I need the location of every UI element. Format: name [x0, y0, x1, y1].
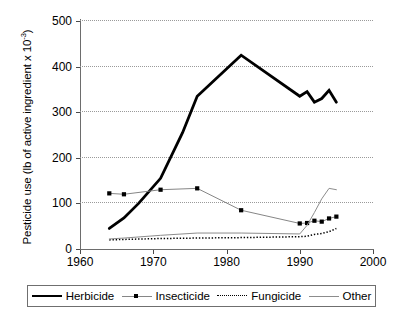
y-tick-label: 400 [38, 61, 72, 73]
x-tick-mark [373, 250, 374, 254]
other-line-icon [309, 291, 339, 301]
series-line-fungicide [109, 228, 336, 239]
data-point-marker-insecticide [107, 191, 111, 195]
legend-label-other: Other [342, 290, 372, 302]
chart-legend: Herbicide Insecticide Fungicide Other [27, 285, 376, 307]
x-tick-label: 1990 [277, 256, 323, 268]
x-tick-label: 1960 [57, 256, 103, 268]
y-tick-label: 100 [38, 197, 72, 209]
y-tick-label: 300 [38, 106, 72, 118]
x-tick-label: 1980 [204, 256, 250, 268]
data-point-marker-insecticide [122, 192, 126, 196]
y-tick-label: 0 [38, 243, 72, 255]
y-axis-title-main: Pesticide use (lb of active ingredient x… [21, 40, 33, 245]
fungicide-line-icon [217, 291, 247, 301]
y-tick-label: 200 [38, 152, 72, 164]
gridline [80, 111, 373, 113]
legend-item-herbicide[interactable]: Herbicide [32, 290, 115, 302]
legend-label-insecticide: Insecticide [155, 290, 210, 302]
legend-item-fungicide[interactable]: Fungicide [217, 290, 301, 302]
data-point-marker-insecticide [298, 221, 302, 225]
data-point-marker-insecticide [239, 208, 243, 212]
pesticide-use-chart: Pesticide use (lb of active ingredient x… [0, 0, 405, 322]
x-tick-label: 1970 [130, 256, 176, 268]
y-tick-mark [76, 112, 80, 113]
gridline [80, 66, 373, 68]
series-line-other [109, 188, 336, 239]
x-tick-mark [153, 250, 154, 254]
y-axis-title-exponent: -3 [19, 33, 28, 39]
x-tick-mark [300, 250, 301, 254]
y-tick-mark [76, 21, 80, 22]
x-tick-mark [80, 250, 81, 254]
legend-item-other[interactable]: Other [309, 290, 372, 302]
legend-label-herbicide: Herbicide [65, 290, 115, 302]
series-line-insecticide [109, 188, 336, 223]
data-point-marker-insecticide [320, 220, 324, 224]
y-tick-label: 500 [38, 15, 72, 27]
legend-item-insecticide[interactable]: Insecticide [122, 290, 210, 302]
data-point-marker-insecticide [312, 219, 316, 223]
data-point-marker-insecticide [334, 215, 338, 219]
gridline [80, 157, 373, 159]
x-tick-mark [227, 250, 228, 254]
y-axis-line [80, 19, 81, 251]
y-tick-mark [76, 67, 80, 68]
herbicide-line-icon [32, 291, 62, 301]
y-axis-title-close: ) [21, 30, 33, 34]
data-point-marker-insecticide [195, 186, 199, 190]
y-tick-mark [76, 203, 80, 204]
y-tick-mark [76, 158, 80, 159]
gridline [80, 20, 373, 22]
data-point-marker-insecticide [305, 221, 309, 225]
legend-label-fungicide: Fungicide [250, 290, 301, 302]
x-tick-label: 2000 [350, 256, 396, 268]
data-point-marker-insecticide [327, 216, 331, 220]
y-axis-title: Pesticide use (lb of active ingredient x… [18, 12, 36, 262]
data-point-marker-insecticide [158, 188, 162, 192]
gridline [80, 202, 373, 204]
insecticide-line-icon [122, 291, 152, 301]
